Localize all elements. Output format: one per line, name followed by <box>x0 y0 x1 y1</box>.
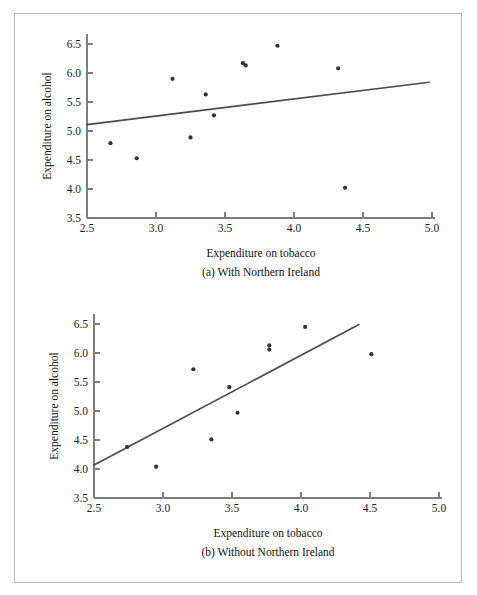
data-point <box>227 385 231 389</box>
panel-a-xtick-0: 2.5 <box>80 222 95 234</box>
panel-a-ytick-1: 4.0 <box>67 183 82 195</box>
data-point <box>303 325 307 329</box>
data-point <box>154 465 158 469</box>
panel-b-ytick-2: 4.5 <box>74 434 89 446</box>
panel-a-ytick-3: 5.0 <box>67 125 82 137</box>
figure-border: 3.5 4.0 4.5 5.0 5.5 6.0 6.5 2.5 3.0 3.5 … <box>14 13 462 583</box>
panel-without-northern-ireland: 3.5 4.0 4.5 5.0 5.5 6.0 6.5 2.5 3.0 3.5 … <box>15 291 463 584</box>
panel-a-ytick-5: 6.0 <box>67 67 82 79</box>
panel-b-xtick-2: 3.5 <box>225 502 240 514</box>
panel-a-fitline-group <box>87 82 429 124</box>
panel-b-ylabel: Expenditure on alcohol <box>48 352 61 459</box>
panel-a-svg: 3.5 4.0 4.5 5.0 5.5 6.0 6.5 2.5 3.0 3.5 … <box>15 14 463 294</box>
panel-b-fitline-group <box>94 325 359 465</box>
data-point <box>135 156 139 160</box>
panel-b-regression-line <box>94 325 359 465</box>
data-point <box>188 135 192 139</box>
panel-a-ytick-4: 5.5 <box>67 96 82 108</box>
panel-b-xtick-4: 4.5 <box>363 502 378 514</box>
panel-b-xlabel: Expenditure on tobacco <box>213 527 322 540</box>
data-point <box>267 347 271 351</box>
panel-b-xtick-1: 3.0 <box>156 502 171 514</box>
panel-b-ytick-5: 6.0 <box>74 347 89 359</box>
data-point <box>209 437 213 441</box>
data-point <box>191 367 195 371</box>
data-point <box>343 186 347 190</box>
panel-a-x-ticks: 2.5 3.0 3.5 4.0 4.5 5.0 <box>80 212 440 234</box>
panel-b-ytick-3: 5.0 <box>74 405 89 417</box>
panel-a-xtick-4: 4.5 <box>356 222 371 234</box>
panel-a-caption: (a) With Northern Ireland <box>202 266 320 279</box>
data-point <box>275 44 279 48</box>
data-point <box>235 411 239 415</box>
panel-b-xtick-0: 2.5 <box>87 502 102 514</box>
panel-b-caption: (b) Without Northern Ireland <box>201 546 334 559</box>
panel-b-ytick-6: 6.5 <box>74 318 89 330</box>
panel-b-svg: 3.5 4.0 4.5 5.0 5.5 6.0 6.5 2.5 3.0 3.5 … <box>15 291 463 584</box>
data-point <box>204 92 208 96</box>
panel-a-y-ticks: 3.5 4.0 4.5 5.0 5.5 6.0 6.5 <box>67 38 93 224</box>
panel-a-ytick-6: 6.5 <box>67 38 82 50</box>
panel-b-xtick-5: 5.0 <box>432 502 447 514</box>
data-point <box>369 352 373 356</box>
data-point <box>125 445 129 449</box>
data-point <box>336 66 340 70</box>
panel-b-x-ticks: 2.5 3.0 3.5 4.0 4.5 5.0 <box>87 492 447 514</box>
data-point <box>267 343 271 347</box>
panel-b-xtick-3: 4.0 <box>294 502 309 514</box>
data-point <box>170 77 174 81</box>
data-point <box>244 63 248 67</box>
panel-with-northern-ireland: 3.5 4.0 4.5 5.0 5.5 6.0 6.5 2.5 3.0 3.5 … <box>15 14 463 294</box>
panel-b-ytick-1: 4.0 <box>74 463 89 475</box>
panel-a-xtick-2: 3.5 <box>218 222 233 234</box>
panel-a-ytick-2: 4.5 <box>67 154 82 166</box>
data-point <box>212 113 216 117</box>
panel-a-xtick-3: 4.0 <box>287 222 302 234</box>
panel-a-regression-line <box>87 82 429 124</box>
panel-b-points-group <box>125 325 373 469</box>
panel-b-ytick-4: 5.5 <box>74 376 89 388</box>
panel-b-y-ticks: 3.5 4.0 4.5 5.0 5.5 6.0 6.5 <box>74 318 100 504</box>
panel-a-xtick-5: 5.0 <box>425 222 440 234</box>
panel-a-xlabel: Expenditure on tobacco <box>206 247 315 260</box>
data-point <box>108 141 112 145</box>
panel-a-ylabel: Expenditure on alcohol <box>41 72 54 179</box>
panel-a-xtick-1: 3.0 <box>149 222 164 234</box>
